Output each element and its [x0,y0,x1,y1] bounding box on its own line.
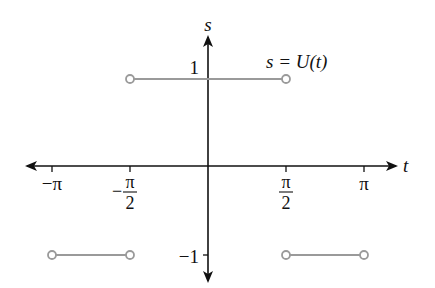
open-endpoint [126,75,134,83]
x-tick: π2 [279,166,293,213]
open-endpoint [282,251,290,259]
x-tick-label: −π [42,173,63,194]
y-tick-label: −1 [179,246,199,267]
step-segment [282,251,368,259]
x-tick-label-sign: − [112,181,122,201]
y-tick-label: 1 [190,57,200,78]
open-endpoint [48,251,56,259]
x-tick-label-denominator: 2 [125,193,134,213]
open-endpoint [360,251,368,259]
y-tick: −1 [179,246,208,267]
x-tick: π [359,166,369,194]
y-tick: 1 [190,57,209,79]
x-tick: −π [42,166,63,194]
x-axis-label: t [403,155,409,176]
open-endpoint [126,251,134,259]
x-tick-label-numerator: π [125,172,134,192]
step-function-plot: t s −ππ2−π2π 1−1 s = U(t) [0,0,435,288]
x-ticks: −ππ2−π2π [42,166,369,213]
function-annotation: s = U(t) [266,51,327,73]
y-axis-label: s [204,14,211,35]
axes: t s [27,14,409,281]
x-tick: π2− [112,166,137,213]
x-tick-label-numerator: π [281,172,290,192]
open-endpoint [282,75,290,83]
x-tick-label-denominator: 2 [282,193,291,213]
y-ticks: 1−1 [179,57,208,267]
x-tick-label: π [359,173,369,194]
step-segment [48,251,134,259]
